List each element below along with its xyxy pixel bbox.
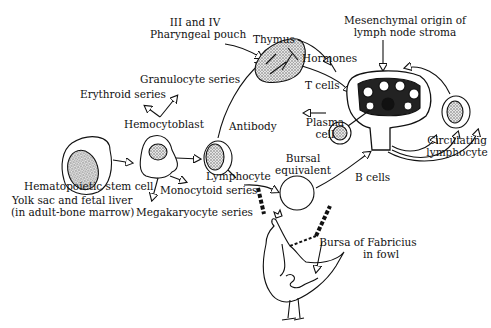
monocytoid-series-label: Monocytoid series [160, 184, 258, 196]
pharyngeal-line1: III and IV [150, 16, 240, 28]
granulocyte-series-label: Granulocyte series [140, 73, 240, 85]
yolk-sac-label-line1: Yolk sac and fetal liver [12, 194, 133, 206]
lymph-node-icon [347, 71, 431, 150]
bursal-equivalent-label: Bursal equivalent [272, 152, 334, 176]
bursa-line2: in fowl [316, 248, 420, 260]
diagram-artwork [0, 0, 491, 328]
thymus-icon [255, 39, 305, 83]
mesenchymal-line2: lymph node stroma [330, 26, 480, 38]
pharyngeal-pouch-label: III and IV Pharyngeal pouch [150, 16, 240, 40]
b-cells-label: B cells [355, 171, 390, 183]
erythroid-series-label: Erythroid series [80, 88, 166, 100]
antibody-label: Antibody [229, 120, 277, 132]
bursal-line2: equivalent [272, 164, 334, 176]
circulating-line1: Circulating [420, 134, 491, 146]
hematopoietic-stem-cell-label: Hematopoietic stem cell [24, 180, 153, 192]
bursal-line1: Bursal [272, 152, 334, 164]
plasma-line1: Plasma [303, 116, 347, 128]
lymphocyte-label: Lymphocyte [206, 170, 271, 182]
bursal-equivalent-icon [280, 176, 314, 210]
lymphocyte-development-diagram: III and IV Pharyngeal pouch Thymus Hormo… [0, 0, 491, 328]
circulating-lymphocyte-icon [442, 96, 470, 128]
megakaryocyte-series-label: Megakaryocyte series [136, 206, 253, 218]
mesenchymal-line1: Mesenchymal origin of [330, 14, 480, 26]
hormones-label: Hormones [302, 52, 357, 64]
hemocytoblast-cell-icon [140, 135, 177, 178]
thymus-label: Thymus [253, 33, 295, 45]
circulating-line2: lymphocyte [420, 146, 491, 158]
yolk-sac-label-line2: (in adult-bone marrow) [11, 206, 134, 218]
hemocytoblast-label: Hemocytoblast [124, 118, 204, 130]
chicken-fowl-icon [263, 210, 344, 320]
pharyngeal-line2: Pharyngeal pouch [150, 28, 240, 40]
t-cells-label: T cells [305, 79, 340, 91]
circulating-lymphocyte-label: Circulating lymphocyte [420, 134, 491, 158]
bursa-of-fabricius-label: Bursa of Fabricius in fowl [316, 236, 420, 260]
bursa-line1: Bursa of Fabricius [316, 236, 420, 248]
plasma-line2: cell [303, 128, 347, 140]
mesenchymal-label: Mesenchymal origin of lymph node stroma [330, 14, 480, 38]
plasma-cell-label: Plasma cell [303, 116, 347, 140]
